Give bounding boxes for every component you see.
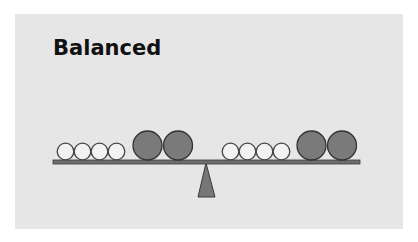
small-ball <box>273 143 290 160</box>
small-ball <box>57 143 74 160</box>
small-ball <box>239 143 256 160</box>
large-ball <box>164 131 193 160</box>
right-large-balls <box>297 131 357 160</box>
right-small-balls <box>222 143 290 160</box>
small-ball <box>74 143 91 160</box>
large-ball <box>133 131 162 160</box>
small-ball <box>256 143 273 160</box>
large-ball <box>297 131 326 160</box>
left-small-balls <box>57 143 125 160</box>
balance-scale <box>0 0 418 242</box>
fulcrum-icon <box>198 163 215 197</box>
small-ball <box>108 143 125 160</box>
small-ball <box>91 143 108 160</box>
beam <box>53 160 360 164</box>
large-ball <box>328 131 357 160</box>
left-large-balls <box>133 131 193 160</box>
small-ball <box>222 143 239 160</box>
